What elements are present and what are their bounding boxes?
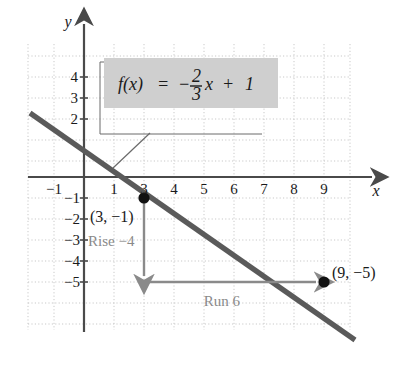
y-tick-label: 2 (71, 111, 79, 127)
x-tick-label: 7 (260, 181, 268, 197)
formula-plus: + (222, 74, 234, 94)
graph-figure: f(x) = − 2 3 x + 1 −1 1 3 4 5 6 7 8 9 4 … (0, 0, 416, 384)
y-tick-label: −3 (64, 232, 80, 248)
x-tick-label: 8 (290, 181, 298, 197)
point-label-9-minus5: (9, −5) (332, 264, 376, 282)
point-9-minus5 (318, 276, 329, 287)
x-tick-label: 1 (110, 181, 118, 197)
formula-sign: − (178, 74, 190, 94)
coordinate-plane-svg: f(x) = − 2 3 x + 1 −1 1 3 4 5 6 7 8 9 4 … (0, 0, 416, 384)
point-label-3-minus1: (3, −1) (90, 208, 134, 226)
rise-label: Rise −4 (88, 233, 135, 249)
y-tick-label: 4 (71, 69, 79, 85)
formula-numerator: 2 (192, 66, 201, 86)
x-tick-label: 4 (170, 181, 178, 197)
run-label: Run 6 (204, 293, 241, 309)
formula-variable: x (204, 74, 213, 94)
y-axis-label: y (62, 13, 72, 31)
formula-denominator: 3 (191, 84, 201, 104)
formula-equals: = (157, 74, 169, 94)
x-tick-label: −1 (46, 181, 62, 197)
x-tick-label: 5 (200, 181, 208, 197)
formula-intercept: 1 (245, 74, 254, 94)
x-tick-label: 6 (230, 181, 238, 197)
x-tick-label: 9 (320, 181, 328, 197)
y-tick-label: −2 (64, 211, 80, 227)
x-axis-label: x (371, 182, 379, 199)
y-tick-label: 3 (71, 90, 79, 106)
formula-fn: f(x) (118, 74, 143, 95)
y-tick-label: −1 (64, 190, 80, 206)
x-tick-label: 3 (140, 181, 148, 197)
y-tick-label: −5 (64, 274, 80, 290)
y-tick-label: −4 (64, 253, 80, 269)
